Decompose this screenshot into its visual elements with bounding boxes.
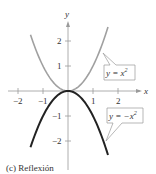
x-tick-label: −2 <box>13 96 23 106</box>
callout-y-equals-neg-x-squared: y = −x2 <box>106 108 143 141</box>
x-tick-label: 1 <box>91 96 96 106</box>
y-tick-label: −2 <box>52 136 62 146</box>
x-axis-label: x <box>143 86 148 96</box>
x-tick-label: 2 <box>116 96 121 106</box>
reflection-chart: −2 −1 1 2 2 1 −1 −2 x y y = x2 y = −x2 <box>0 0 156 174</box>
y-tick-label: 1 <box>57 61 62 71</box>
svg-text:y = −x2: y = −x2 <box>108 110 137 121</box>
callout-y-equals-x-squared: y = x2 <box>103 53 135 80</box>
x-tick-label: −1 <box>38 96 48 106</box>
figure-caption: (c) Reflexión <box>6 163 54 173</box>
axes <box>8 21 142 170</box>
svg-text:y = x2: y = x2 <box>105 67 128 78</box>
y-axis-arrow-icon <box>66 21 70 27</box>
y-axis-label: y <box>64 9 69 19</box>
y-tick-label: −1 <box>52 111 62 121</box>
curve-y-equals-x-squared <box>31 27 109 91</box>
y-tick-label: 2 <box>57 36 62 46</box>
x-axis-arrow-icon <box>136 89 142 93</box>
